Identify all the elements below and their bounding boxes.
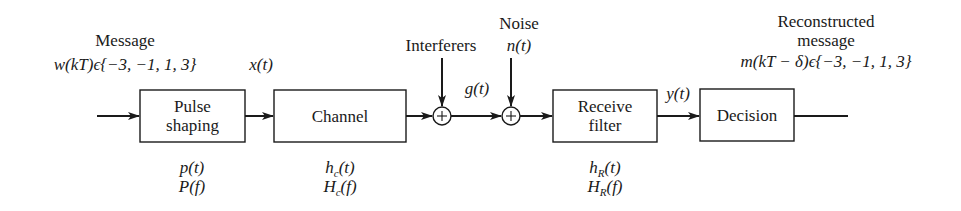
output-heading-line1: Reconstructed [777, 12, 874, 31]
pulse-shaping-label: Pulse shaping [140, 90, 245, 142]
receive-label-line1: Receive [578, 97, 633, 116]
receive-filter-label: Receive filter [553, 90, 657, 142]
x-signal-label: x(t) [249, 55, 273, 74]
g-signal-label: g(t) [465, 79, 490, 98]
noise-signal-label: n(t) [507, 36, 532, 55]
channel-label: Channel [274, 90, 406, 142]
decision-label: Decision [700, 89, 794, 141]
receive-label-line2: filter [588, 116, 621, 135]
pulse-freq-response: P(f) [179, 177, 205, 196]
input-heading: Message [95, 31, 154, 50]
receive-freq-response: HR(f) [587, 177, 622, 202]
pulse-label-line1: Pulse [174, 97, 211, 116]
interferers-label: Interferers [406, 36, 477, 55]
y-signal-label: y(t) [666, 84, 690, 103]
output-signal-label: m(kT − δ)ϵ{−3, −1, 1, 3} [740, 52, 911, 71]
pulse-time-response: p(t) [180, 158, 205, 177]
channel-freq-response: Hc(f) [323, 177, 356, 202]
input-signal-label: w(kT)ϵ{−3, −1, 1, 3} [54, 55, 197, 74]
noise-label: Noise [499, 14, 539, 33]
output-heading-line2: message [797, 31, 855, 50]
pulse-label-line2: shaping [166, 116, 219, 135]
